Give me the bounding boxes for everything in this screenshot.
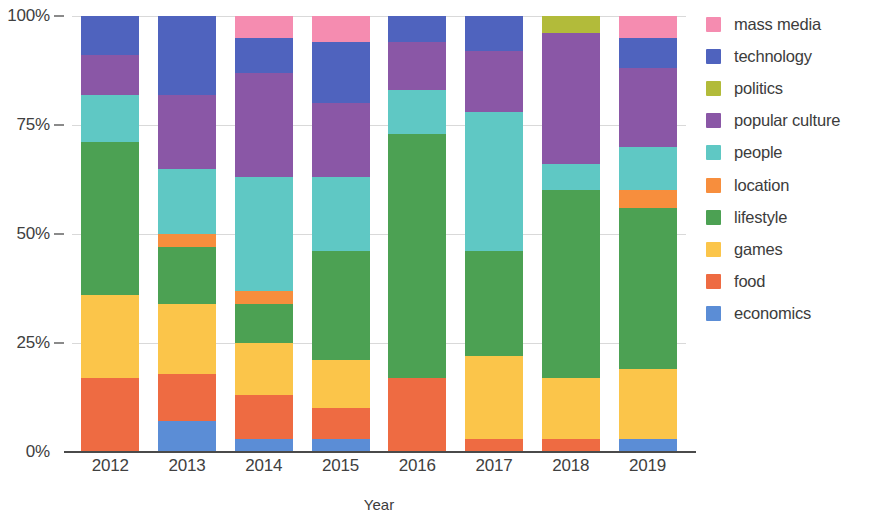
bar-segment-location[interactable]: [158, 234, 216, 247]
x-tick-label: 2013: [149, 456, 226, 482]
bar-segment-people[interactable]: [465, 112, 523, 252]
bar-segment-lifestyle[interactable]: [81, 142, 139, 295]
bar-segment-location[interactable]: [619, 190, 677, 207]
bar-segment-technology[interactable]: [465, 16, 523, 51]
legend-item[interactable]: mass media: [706, 8, 871, 40]
stacked-bar[interactable]: [235, 16, 293, 452]
bar-segment-games[interactable]: [465, 356, 523, 439]
bar-group: [226, 16, 303, 452]
legend-item[interactable]: people: [706, 137, 871, 169]
bar-group: [533, 16, 610, 452]
bar-segment-games[interactable]: [81, 295, 139, 378]
bar-segment-people[interactable]: [619, 147, 677, 191]
bar-segment-games[interactable]: [619, 369, 677, 439]
legend-swatch-icon: [706, 145, 721, 160]
stacked-bar[interactable]: [619, 16, 677, 452]
bar-segment-popular-culture[interactable]: [619, 68, 677, 146]
stacked-bar[interactable]: [388, 16, 446, 452]
bar-segment-mass-media[interactable]: [619, 16, 677, 38]
legend-item[interactable]: economics: [706, 298, 871, 330]
legend-item-label: lifestyle: [734, 208, 787, 227]
x-tick-label: 2012: [72, 456, 149, 482]
legend-item-label: politics: [734, 79, 783, 98]
bar-segment-food[interactable]: [388, 378, 446, 452]
bar-segment-games[interactable]: [158, 304, 216, 374]
bar-segment-popular-culture[interactable]: [465, 51, 523, 112]
bar-segment-games[interactable]: [312, 360, 370, 408]
plot-area: [72, 16, 686, 452]
stacked-bar[interactable]: [542, 16, 600, 452]
legend-item[interactable]: location: [706, 169, 871, 201]
bar-segment-lifestyle[interactable]: [388, 134, 446, 378]
bar-group: [302, 16, 379, 452]
bar-segment-popular-culture[interactable]: [235, 73, 293, 178]
legend-item-label: games: [734, 240, 783, 259]
bar-segment-lifestyle[interactable]: [542, 190, 600, 377]
bar-segment-lifestyle[interactable]: [235, 304, 293, 343]
bar-segment-location[interactable]: [235, 291, 293, 304]
legend-item[interactable]: food: [706, 266, 871, 298]
bar-segment-lifestyle[interactable]: [465, 251, 523, 356]
bar-segment-technology[interactable]: [619, 38, 677, 69]
stacked-bar[interactable]: [465, 16, 523, 452]
y-tick-mark-25: [54, 342, 64, 344]
bar-segment-technology[interactable]: [235, 38, 293, 73]
bar-segment-popular-culture[interactable]: [81, 55, 139, 94]
bar-segment-popular-culture[interactable]: [388, 42, 446, 90]
stacked-bar[interactable]: [312, 16, 370, 452]
stacked-bar[interactable]: [158, 16, 216, 452]
bar-segment-people[interactable]: [81, 95, 139, 143]
bar-segment-lifestyle[interactable]: [312, 251, 370, 360]
bar-segment-economics[interactable]: [158, 421, 216, 452]
bar-segment-popular-culture[interactable]: [158, 95, 216, 169]
y-tick-label-50: 50%: [17, 224, 50, 244]
y-axis: 100% 75% 50% 25% 0%: [0, 16, 64, 452]
legend-item[interactable]: games: [706, 233, 871, 265]
bar-segment-technology[interactable]: [81, 16, 139, 55]
bar-segment-food[interactable]: [235, 395, 293, 439]
bar-segment-people[interactable]: [542, 164, 600, 190]
bar-segment-food[interactable]: [158, 374, 216, 422]
y-tick-mark-75: [54, 124, 64, 126]
bar-segment-lifestyle[interactable]: [158, 247, 216, 304]
stacked-bar[interactable]: [81, 16, 139, 452]
legend-item[interactable]: technology: [706, 40, 871, 72]
legend-swatch-icon: [706, 274, 721, 289]
legend-swatch-icon: [706, 17, 721, 32]
bar-segment-technology[interactable]: [158, 16, 216, 94]
bar-segment-food[interactable]: [81, 378, 139, 452]
bar-segment-games[interactable]: [235, 343, 293, 395]
bar-segment-popular-culture[interactable]: [542, 33, 600, 164]
x-tick-label: 2016: [379, 456, 456, 482]
bar-segment-technology[interactable]: [312, 42, 370, 103]
bar-segment-mass-media[interactable]: [312, 16, 370, 42]
bar-segment-technology[interactable]: [388, 16, 446, 42]
x-tick-label: 2017: [456, 456, 533, 482]
bar-segment-people[interactable]: [388, 90, 446, 134]
bar-group: [609, 16, 686, 452]
legend-swatch-icon: [706, 81, 721, 96]
y-tick-label-25: 25%: [17, 333, 50, 353]
bar-segment-people[interactable]: [235, 177, 293, 290]
bar-segment-people[interactable]: [158, 169, 216, 234]
bar-segment-food[interactable]: [312, 408, 370, 439]
bar-segment-people[interactable]: [312, 177, 370, 251]
bar-segment-mass-media[interactable]: [235, 16, 293, 38]
legend-item[interactable]: lifestyle: [706, 201, 871, 233]
bar-segment-popular-culture[interactable]: [312, 103, 370, 177]
legend-swatch-icon: [706, 113, 721, 128]
y-tick-mark-50: [54, 233, 64, 235]
bar-segment-politics[interactable]: [542, 16, 600, 33]
legend-swatch-icon: [706, 49, 721, 64]
legend-item[interactable]: popular culture: [706, 105, 871, 137]
y-tick-mark-100: [54, 15, 64, 17]
bar-segment-games[interactable]: [542, 378, 600, 439]
x-tick-label: 2018: [533, 456, 610, 482]
legend-item[interactable]: politics: [706, 72, 871, 104]
bar-group: [149, 16, 226, 452]
bar-segment-lifestyle[interactable]: [619, 208, 677, 369]
legend-item-label: technology: [734, 47, 812, 66]
y-tick-label-75: 75%: [17, 115, 50, 135]
legend-item-label: people: [734, 143, 782, 162]
legend-item-label: economics: [734, 304, 811, 323]
